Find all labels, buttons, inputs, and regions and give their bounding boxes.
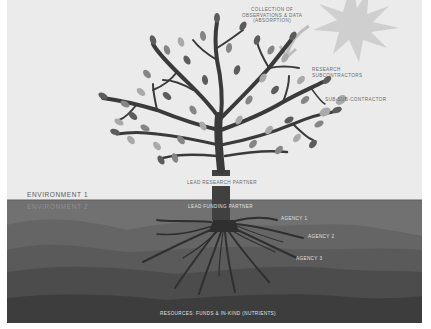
curved-arrow-down-icon [280,26,309,57]
tree-icon [103,22,333,170]
label-agency-1: AGENCY 1 [281,216,307,222]
sun-icon [313,0,399,62]
label-resources: RESOURCES: FUNDS & IN-KIND (NUTRIENTS) [160,311,276,317]
scene-illustration [7,0,422,323]
label-collection-of-observations: COLLECTION OF OBSERVATIONS & DATA (ABSOR… [242,7,302,24]
label-environment-1: ENVIRONMENT 1 [27,191,88,198]
label-environment-2: ENVIRONMENT 2 [27,203,88,210]
diagram-canvas: COLLECTION OF OBSERVATIONS & DATA (ABSOR… [7,0,422,323]
label-research-subcontractors: RESEARCH SUBCONTRACTORS [312,67,362,78]
trunk [212,170,230,220]
label-lead-research-partner: LEAD RESEARCH PARTNER [187,180,257,186]
label-agency-2: AGENCY 2 [308,234,334,240]
label-line: SUBCONTRACTORS [312,73,362,79]
label-lead-funding-partner: LEAD FUNDING PARTNER [188,204,253,210]
label-sub-sub-contractor: SUB-SUB-CONTRACTOR [325,97,386,103]
label-line: (ABSORPTION) [242,18,302,24]
label-line: COLLECTION OF [242,7,302,13]
label-agency-3: AGENCY 3 [296,256,322,262]
